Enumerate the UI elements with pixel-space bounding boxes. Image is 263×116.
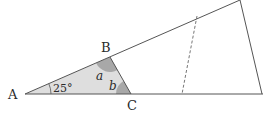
geometry-diagram: A B C 25° a b xyxy=(0,0,263,116)
label-c-point: C xyxy=(127,98,137,113)
right-side xyxy=(240,0,262,94)
label-a-point: A xyxy=(7,87,18,102)
label-angle-25: 25° xyxy=(53,82,73,95)
dashed-segment xyxy=(182,16,197,94)
label-b-point: B xyxy=(101,40,111,55)
line-a-to-apex xyxy=(25,0,240,94)
label-angle-b: b xyxy=(109,79,117,93)
label-angle-a: a xyxy=(96,69,103,83)
